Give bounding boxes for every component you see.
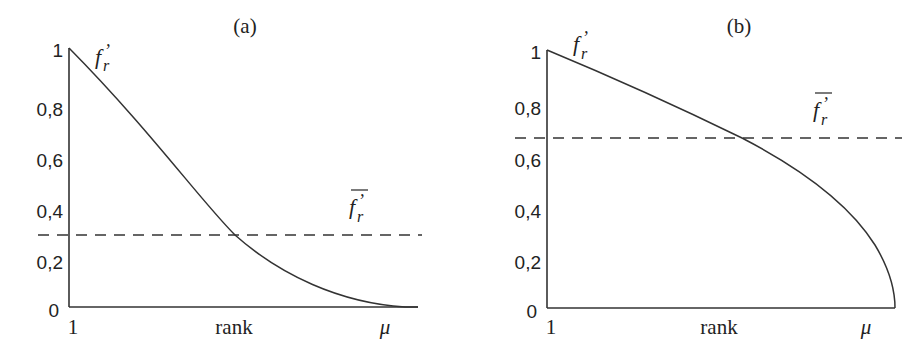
y-tick-label: 0,2 xyxy=(515,252,541,273)
y-tick-label: 0,4 xyxy=(37,201,64,222)
y-tick-label: 0,4 xyxy=(515,201,542,222)
svg-text:’: ’ xyxy=(104,41,110,61)
svg-text:’: ’ xyxy=(582,28,588,48)
y-tick-label: 0,6 xyxy=(515,150,541,171)
y-tick-label: 0 xyxy=(526,301,537,322)
y-tick-label: 0,6 xyxy=(37,150,63,171)
x-start-label: 1 xyxy=(546,315,557,339)
svg-text:’: ’ xyxy=(822,94,828,114)
chart-panel-a: (a) 1 0,8 0,6 0,4 0,2 0 1 rank μ f r ’ f… xyxy=(37,14,422,339)
x-axis-label: rank xyxy=(215,315,253,339)
curve-f-r xyxy=(547,50,895,308)
panel-a-title: (a) xyxy=(233,14,256,38)
panel-b-title: (b) xyxy=(727,14,752,38)
svg-text:’: ’ xyxy=(358,191,364,211)
y-tick-label: 0,8 xyxy=(515,98,541,119)
curve-f-r xyxy=(69,48,418,307)
y-tick-label: 1 xyxy=(52,40,63,61)
mean-label: f r ’ xyxy=(349,190,368,225)
curve-label: f r ’ xyxy=(573,28,588,62)
x-axis-label: rank xyxy=(700,315,738,339)
y-tick-label: 0,2 xyxy=(37,252,63,273)
x-end-label: μ xyxy=(860,315,872,339)
chart-panel-b: (b) 1 0,8 0,6 0,4 0,2 0 1 rank μ f r ’ f… xyxy=(515,14,902,339)
y-tick-label: 1 xyxy=(530,42,541,63)
curve-label: f r ’ xyxy=(95,41,110,74)
x-start-label: 1 xyxy=(68,315,79,339)
y-tick-label: 0,8 xyxy=(37,99,63,120)
x-end-label: μ xyxy=(379,315,391,339)
figure: (a) 1 0,8 0,6 0,4 0,2 0 1 rank μ f r ’ f… xyxy=(0,0,920,355)
y-tick-label: 0 xyxy=(48,300,59,321)
mean-label: f r ’ xyxy=(813,93,832,128)
